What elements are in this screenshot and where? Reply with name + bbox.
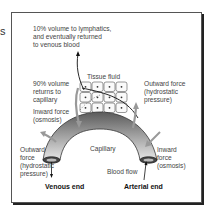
blood-flow-arrow — [144, 163, 146, 180]
outward-force-left-label: Outward force (hydrostatic pressure) — [20, 146, 54, 178]
returns-capillary-label: 90% volume returns to capillary — [33, 80, 69, 104]
arrowhead-icon — [76, 51, 80, 56]
capillary-label: Capillary — [90, 145, 116, 153]
inward-force-right-arrow — [148, 132, 160, 144]
tissue-cells-grid — [80, 82, 127, 113]
arterial-end-label: Arterial end — [124, 183, 163, 191]
tissue-fluid-label: Tissue fluid — [87, 73, 120, 81]
inward-force-left-label: Inward force (osmosis) — [33, 108, 69, 124]
blood-flow-label: Blood flow — [107, 168, 137, 176]
outward-force-top-label: Outward force (hydrostatic pressure) — [144, 80, 185, 104]
lymphatics-label: 10% volume to lymphatics, and eventually… — [33, 25, 111, 49]
venous-end-label: Venous end — [45, 183, 84, 191]
inward-force-right-label: Inward force (osmosis) — [157, 146, 186, 170]
